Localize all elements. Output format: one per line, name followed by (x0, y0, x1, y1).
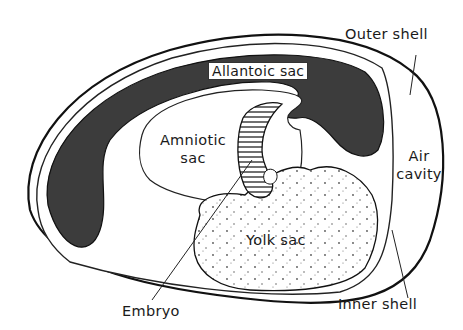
label-outer-shell: Outer shell (345, 26, 428, 42)
egg-diagram (0, 0, 463, 330)
label-amniotic-sac-line1: Amniotic (156, 132, 230, 148)
label-air-cavity-line1: Air (394, 148, 444, 164)
label-inner-shell: Inner shell (338, 296, 417, 312)
label-embryo: Embryo (122, 303, 180, 319)
label-allantoic-sac: Allantoic sac (208, 62, 308, 80)
label-yolk-sac: Yolk sac (246, 232, 306, 248)
label-amniotic-sac-line2: sac (156, 150, 230, 166)
label-air-cavity-line2: cavity (394, 166, 444, 182)
